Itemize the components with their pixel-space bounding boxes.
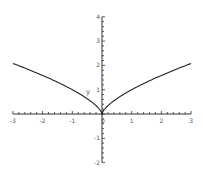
x-tick-label: 2 <box>159 117 163 124</box>
y-tick-label: -1 <box>94 134 100 141</box>
x-tick-label: 1 <box>130 117 134 124</box>
y-tick-label: -2 <box>94 159 100 166</box>
y-tick-label: 4 <box>96 13 100 20</box>
y-tick-label: 2 <box>96 61 100 68</box>
y-tick-label: 1 <box>96 86 100 93</box>
x-tick-label: -2 <box>40 117 46 124</box>
x-tick-label: -1 <box>69 117 75 124</box>
y-tick-label: 3 <box>96 37 100 44</box>
x-tick-label: 0 <box>101 117 105 124</box>
x-tick-label: -3 <box>10 117 16 124</box>
y-axis-label: y <box>86 88 90 96</box>
function-plot: -3-2-10123-2-11234 y <box>0 0 203 176</box>
x-tick-label: 3 <box>189 117 193 124</box>
